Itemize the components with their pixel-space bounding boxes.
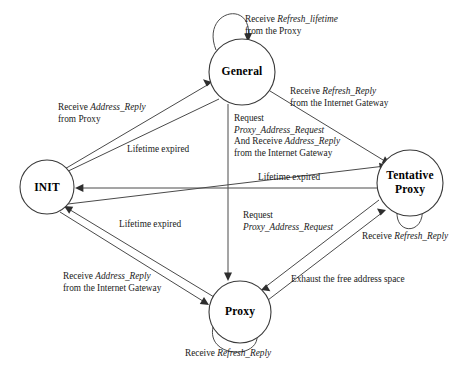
edge-label-gen-proxy-line4: from the Internet Gateway <box>234 148 340 160</box>
edge-label-gen-tent-line2: from the Internet Gateway <box>290 98 388 110</box>
edge-label-proxy-self: Receive Refresh_Reply <box>185 348 271 360</box>
init-general-line <box>63 84 209 170</box>
edge-general-to-proxy <box>224 104 232 281</box>
edge-label-init-tent-line1: Request <box>243 210 333 222</box>
edge-label-init-gen-line2: from Proxy <box>58 114 146 126</box>
edge-label-gen-proxy-line1: Request <box>234 113 340 125</box>
edge-label-init-tent-line2: Proxy_Address_Request <box>243 222 333 234</box>
edge-label-proxy-to-tentative: Exhaust the free address space <box>291 274 405 286</box>
edge-label-init-gen-line1: Receive Address_Reply <box>58 102 146 114</box>
edge-label-general-to-init: Lifetime expired <box>127 144 189 156</box>
edge-label-general-self-line2: from the Proxy <box>245 26 338 38</box>
edge-label-tentative-self: Receive Refresh_Reply <box>362 231 448 243</box>
edge-label-init-to-proxy: Receive Address_Reply from the Internet … <box>63 271 161 294</box>
init-tentative-main <box>68 166 385 204</box>
edge-label-init-to-general: Receive Address_Reply from Proxy <box>58 102 146 125</box>
edge-label-tentative-to-init: Lifetime expired <box>258 172 320 184</box>
edge-label-proxy-to-init: Lifetime expired <box>119 219 181 231</box>
proxy-tentative-arrowhead <box>377 208 386 215</box>
node-proxy[interactable] <box>209 281 271 343</box>
edge-label-gen-proxy-line3: And Receive Address_Reply <box>234 136 340 148</box>
edge-label-general-self: Receive Refresh_lifetime from the Proxy <box>245 14 338 37</box>
edge-label-init-to-tentative: Request Proxy_Address_Request <box>243 210 333 233</box>
edge-label-general-to-proxy: Request Proxy_Address_Request And Receiv… <box>234 113 340 159</box>
edge-label-gen-proxy-line2: Proxy_Address_Request <box>234 125 340 137</box>
diagram-svg <box>0 0 464 382</box>
tentative-init-arrowhead <box>75 184 83 192</box>
general-proxy-arrowhead <box>224 273 232 281</box>
edge-label-general-to-tentative: Receive Refresh_Reply from the Internet … <box>290 86 388 109</box>
state-diagram-canvas: General INIT Tentative Proxy Proxy Recei… <box>0 0 464 382</box>
edge-label-init-proxy-line2: from the Internet Gateway <box>63 283 161 295</box>
edge-label-general-self-line1: Receive Refresh_lifetime <box>245 14 338 26</box>
edge-label-gen-tent-line1: Receive Refresh_Reply <box>290 86 388 98</box>
node-tentative-proxy[interactable] <box>377 150 443 216</box>
edge-label-init-proxy-line1: Receive Address_Reply <box>63 271 161 283</box>
init-proxy-arrowhead <box>200 297 209 305</box>
node-general[interactable] <box>209 39 275 105</box>
node-init[interactable] <box>20 160 74 214</box>
